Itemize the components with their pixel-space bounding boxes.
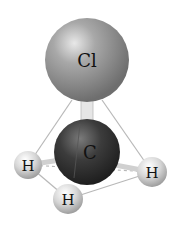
atom-label-cl: Cl bbox=[77, 50, 97, 71]
atom-label-h1: H bbox=[21, 157, 34, 175]
atom-hydrogen-bottom: H bbox=[53, 184, 83, 214]
atom-label-c: C bbox=[83, 142, 97, 163]
atom-carbon: C bbox=[54, 119, 120, 185]
chloromethane-model: Cl H C H H bbox=[0, 0, 177, 229]
atom-label-h3: H bbox=[145, 164, 158, 182]
atom-hydrogen-left: H bbox=[14, 151, 42, 179]
atom-hydrogen-right: H bbox=[137, 157, 167, 187]
atom-chlorine: Cl bbox=[45, 18, 129, 102]
atom-label-h2: H bbox=[61, 191, 74, 209]
